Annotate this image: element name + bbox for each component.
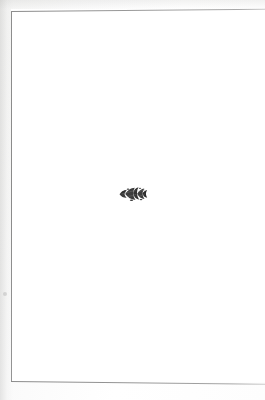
fleuron-ornament: leaf fleuron ornament — [118, 183, 148, 205]
scanned-page: leaf fleuron ornament — [0, 0, 265, 400]
